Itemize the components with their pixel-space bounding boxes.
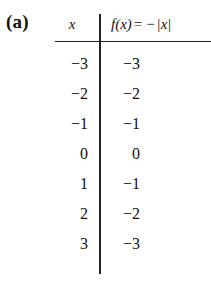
cell-x-value: 3 [55, 229, 88, 259]
cell-fx-value: −2 [105, 199, 140, 229]
cell-fx-value: −1 [105, 169, 140, 199]
fx-equals-sign: = [132, 16, 144, 32]
cell-fx-value: −1 [105, 109, 140, 139]
cell-x-value: −2 [55, 79, 88, 109]
cell-fx-value: −3 [105, 49, 140, 79]
fx-argument: x [120, 16, 127, 32]
figure-container: (a) x f(x)=−|x| −3 −3 −2 −2 −1 −1 0 0 1 [0, 0, 211, 297]
table-row: −3 −3 [55, 49, 211, 79]
table-row: −2 −2 [55, 79, 211, 109]
header-horizontal-rule [55, 41, 211, 42]
fx-minus-sign: − [144, 16, 156, 32]
table-row: 1 −1 [55, 169, 211, 199]
cell-fx-value: −3 [105, 229, 140, 259]
table-row: 2 −2 [55, 199, 211, 229]
function-value-table: x f(x)=−|x| −3 −3 −2 −2 −1 −1 0 0 1 −1 2 [55, 12, 211, 274]
cell-fx-value: −2 [105, 79, 140, 109]
table-header-row: x f(x)=−|x| [55, 12, 211, 41]
cell-x-value: 2 [55, 199, 88, 229]
cell-x-value: 0 [55, 139, 88, 169]
part-label: (a) [6, 12, 29, 32]
cell-x-value: −3 [55, 49, 88, 79]
table-row: 0 0 [55, 139, 211, 169]
column-header-x: x [55, 15, 89, 33]
cell-x-value: −1 [55, 109, 88, 139]
table-row: 3 −3 [55, 229, 211, 259]
table-row: −1 −1 [55, 109, 211, 139]
absolute-bar-right-icon: | [167, 16, 171, 32]
cell-fx-value: 0 [105, 139, 140, 169]
cell-x-value: 1 [55, 169, 88, 199]
column-header-fx: f(x)=−|x| [111, 14, 171, 34]
